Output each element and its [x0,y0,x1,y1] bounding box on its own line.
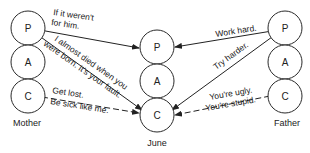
father-name: Father [274,118,300,128]
mother-name: Mother [13,118,41,128]
father-ego-states: P A C Father [268,11,302,128]
mother-child-label: C [24,91,31,102]
mother-parent-label: P [25,23,32,34]
father-child-label: C [281,91,288,102]
june-name: June [147,138,167,148]
father-adult-label: A [282,57,289,68]
june-parent-label: P [154,42,161,53]
father-parent-label: P [282,23,289,34]
mother-adult-label: A [25,57,32,68]
transactional-diagram: P A C Mother P A C June P A C Father If … [0,0,310,153]
june-child-label: C [153,110,160,121]
mother-ego-states: P A C Mother [11,11,45,128]
june-adult-label: A [154,76,161,87]
june-ego-states: P A C June [140,30,174,148]
message-almost-died-line1: I almost died when you [53,33,130,91]
